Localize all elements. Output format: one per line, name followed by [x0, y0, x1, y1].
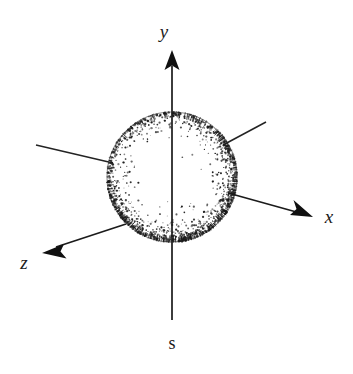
axis-label-z: z — [19, 252, 28, 273]
axis-label-x: x — [324, 206, 334, 227]
arrowheads-group — [42, 50, 313, 259]
axis-label-y: y — [158, 21, 169, 42]
figure-root: y x z s — [0, 0, 353, 374]
axis-line-x-positive — [228, 193, 300, 213]
arrowhead-x-icon — [290, 200, 313, 217]
axis-labels-group: y x z s — [19, 21, 333, 353]
axis-lines-group — [36, 66, 300, 320]
coordinate-axes-diagram: y x z s — [0, 0, 353, 374]
arrowhead-z-icon — [42, 244, 67, 259]
axis-label-s: s — [168, 333, 175, 353]
axis-line-z-positive — [56, 224, 126, 247]
axis-line-z-negative — [223, 122, 266, 145]
axis-line-x-negative — [36, 145, 113, 163]
